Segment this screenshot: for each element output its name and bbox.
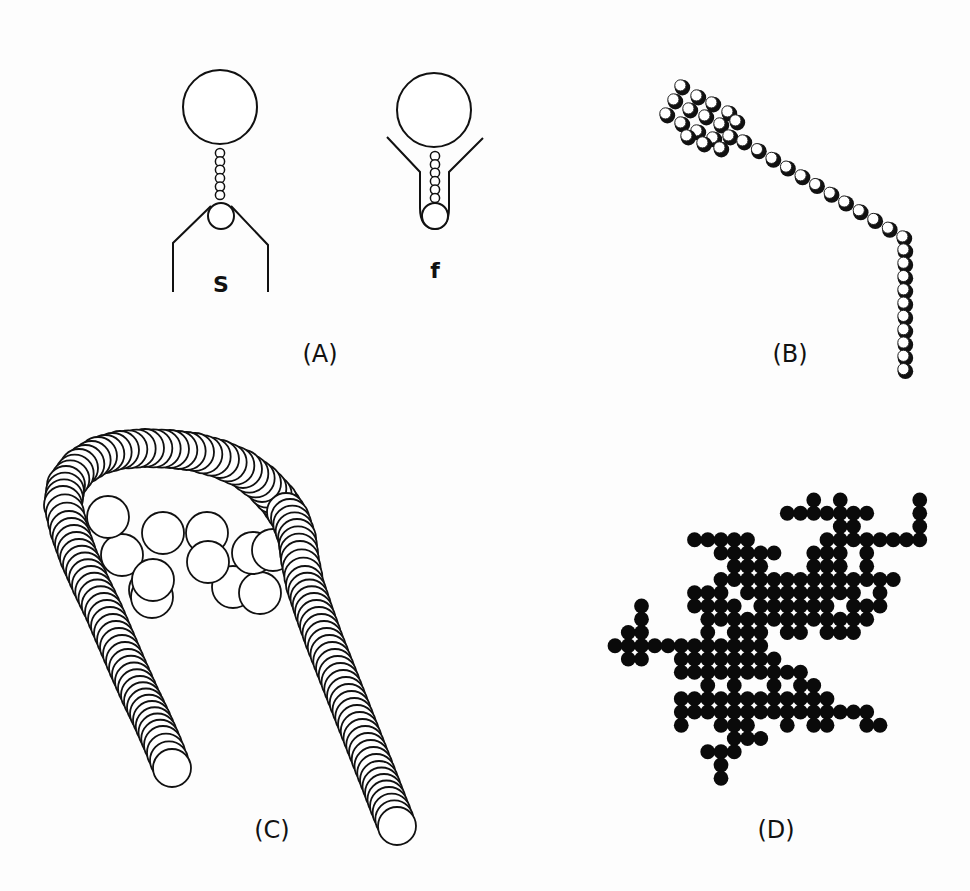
lattice-dot: [727, 652, 742, 667]
lattice-dot: [806, 691, 821, 706]
panel-b-bead-chain: [660, 80, 914, 379]
bead: [898, 284, 909, 295]
bead: [699, 110, 710, 121]
base-bead: [208, 203, 234, 229]
lattice-dot: [753, 665, 768, 680]
bead: [897, 231, 908, 242]
lattice-dot: [846, 585, 861, 600]
lattice-dot: [846, 506, 861, 521]
bead: [898, 337, 909, 348]
bead: [730, 115, 741, 126]
lattice-dot: [700, 691, 715, 706]
bead: [898, 244, 909, 255]
lattice-dot: [714, 744, 729, 759]
bead: [868, 213, 879, 224]
lattice-dot: [700, 665, 715, 680]
lattice-dot: [780, 705, 795, 720]
lattice-dot: [727, 638, 742, 653]
lattice-dot: [727, 625, 742, 640]
bead: [706, 97, 717, 108]
lattice-dot: [833, 585, 848, 600]
lattice-dot: [753, 559, 768, 574]
lattice-dot: [859, 559, 874, 574]
lattice-dot: [714, 532, 729, 547]
lattice-dot: [753, 638, 768, 653]
lattice-dot: [873, 585, 888, 600]
lattice-dot: [740, 652, 755, 667]
lattice-dot: [780, 612, 795, 627]
lattice-dot: [727, 532, 742, 547]
lattice-dot: [793, 665, 808, 680]
figure-svg: (A) (B) (C) (D) S f: [0, 0, 970, 891]
lattice-dot: [740, 731, 755, 746]
lattice-dot: [833, 519, 848, 534]
lattice-dot: [714, 599, 729, 614]
lattice-dot: [833, 625, 848, 640]
lattice-dot: [714, 691, 729, 706]
bead: [723, 130, 734, 141]
lattice-dot: [767, 599, 782, 614]
bead: [898, 364, 909, 375]
lattice-dot: [727, 678, 742, 693]
lattice-dot: [740, 572, 755, 587]
lattice-dot: [714, 585, 729, 600]
lattice-dot: [700, 744, 715, 759]
lattice-dot: [833, 612, 848, 627]
lattice-dot: [806, 585, 821, 600]
lattice-dot: [780, 585, 795, 600]
lattice-dot: [780, 572, 795, 587]
lattice-dot: [621, 652, 636, 667]
lattice-dot: [740, 625, 755, 640]
lattice-dot: [886, 572, 901, 587]
lattice-dot: [780, 599, 795, 614]
lattice-dot: [833, 493, 848, 508]
lattice-dot: [780, 665, 795, 680]
lattice-dot: [793, 599, 808, 614]
lattice-dot: [753, 625, 768, 640]
lattice-dot: [753, 599, 768, 614]
lattice-dot: [700, 612, 715, 627]
lattice-dot: [793, 585, 808, 600]
lattice-dot: [859, 718, 874, 733]
lattice-dot: [740, 585, 755, 600]
lattice-dot: [687, 652, 702, 667]
lattice-dot: [687, 665, 702, 680]
head-circle: [397, 73, 471, 147]
lattice-dot: [687, 532, 702, 547]
lattice-dot: [634, 599, 649, 614]
lattice-dot: [767, 572, 782, 587]
lattice-dot: [700, 599, 715, 614]
bead: [751, 144, 762, 155]
lattice-dot: [899, 532, 914, 547]
lattice-dot: [753, 546, 768, 561]
lattice-dot: [912, 493, 927, 508]
panel-d-lattice-cluster: [608, 493, 928, 786]
lattice-dot: [780, 691, 795, 706]
cluster-bead: [132, 559, 174, 601]
phage-figure-f: [387, 73, 483, 229]
lattice-dot: [806, 559, 821, 574]
neck-bead: [430, 193, 439, 202]
lattice-dot: [820, 718, 835, 733]
lattice-dot: [727, 546, 742, 561]
cluster-bead: [187, 541, 229, 583]
bead: [714, 118, 725, 129]
lattice-dot: [820, 705, 835, 720]
lattice-dot: [780, 506, 795, 521]
lattice-dot: [793, 625, 808, 640]
lattice-dot: [806, 546, 821, 561]
lattice-dot: [820, 532, 835, 547]
chain-bead: [378, 807, 416, 845]
lattice-dot: [859, 506, 874, 521]
lattice-dot: [634, 612, 649, 627]
base-bead: [422, 203, 448, 229]
bead: [780, 161, 791, 172]
phage-figure-s: [173, 70, 268, 292]
lattice-dot: [833, 705, 848, 720]
lattice-dot: [833, 546, 848, 561]
lattice-dot: [806, 612, 821, 627]
lattice-dot: [820, 625, 835, 640]
lattice-dot: [820, 506, 835, 521]
lattice-dot: [634, 652, 649, 667]
lattice-dot: [873, 718, 888, 733]
